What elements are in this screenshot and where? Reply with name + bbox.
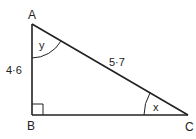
angle-label-y: y (39, 39, 45, 51)
triangle-diagram: A B C 4·6 5·7 y x (0, 0, 196, 139)
right-angle-marker (32, 104, 43, 115)
vertex-label-c: C (185, 120, 194, 134)
angle-arc-c (144, 93, 150, 115)
side-label-ac: 5·7 (109, 56, 125, 68)
diagram-canvas: A B C 4·6 5·7 y x (0, 0, 196, 139)
angle-label-x: x (153, 101, 159, 113)
side-ac (32, 24, 188, 115)
vertex-label-a: A (28, 8, 36, 22)
angle-arc-a (32, 41, 61, 58)
vertex-label-b: B (27, 119, 35, 133)
side-label-ab: 4·6 (6, 64, 22, 76)
